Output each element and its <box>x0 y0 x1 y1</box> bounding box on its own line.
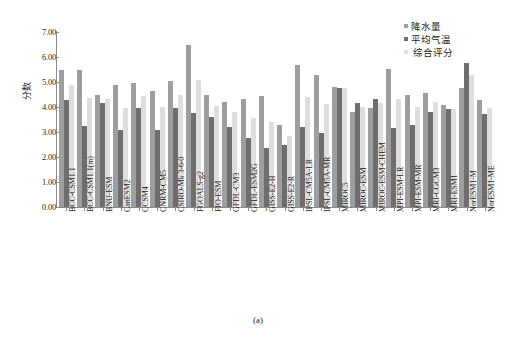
x-tick-label: BCC-CSM1.1 <box>69 167 77 212</box>
x-tick-label: MIROC5 <box>342 182 350 212</box>
figure-panel-a: 0.001.002.003.004.005.006.007.00 分数 BCC-… <box>0 0 516 340</box>
x-tick-mark <box>194 207 195 211</box>
legend-swatch-icon <box>404 50 408 54</box>
y-tick: 2.00 <box>0 153 56 162</box>
x-tick-mark <box>412 207 413 211</box>
y-tick-label: 7.00 <box>22 28 56 37</box>
y-axis-label: 分数 <box>20 82 33 100</box>
y-tick-label: 1.00 <box>22 178 56 187</box>
x-tick-mark <box>103 207 104 211</box>
y-tick: 3.00 <box>0 128 56 137</box>
x-tick-label: NorESM1-ME <box>488 165 496 212</box>
x-tick-mark <box>157 207 158 211</box>
x-tick-mark <box>339 207 340 211</box>
legend-label: 降水量 <box>411 20 441 33</box>
x-tick-label: GFDL-ESM2G <box>251 163 259 212</box>
y-tick-label: 0.00 <box>22 203 56 212</box>
x-tick-label: GISS-E2-R <box>288 176 296 212</box>
x-tick-mark <box>485 207 486 211</box>
x-axis-labels: BCC-CSM1.1BCC-CSM1.1(m)BNU-ESMCanESM2CCS… <box>57 212 494 322</box>
legend-item-precipitation: 降水量 <box>404 20 509 33</box>
y-tick-label: 3.00 <box>22 128 56 137</box>
x-tick-mark <box>357 207 358 211</box>
y-tick-label: 4.00 <box>22 103 56 112</box>
x-tick-mark <box>376 207 377 211</box>
x-tick-mark <box>321 207 322 211</box>
x-tick-mark <box>467 207 468 211</box>
x-tick-label: MPI-ESM-MR <box>415 165 423 212</box>
y-axis-ticks: 0.001.002.003.004.005.006.007.00 <box>0 32 56 207</box>
y-tick-label: 6.00 <box>22 53 56 62</box>
x-tick-mark <box>139 207 140 211</box>
legend-swatch-icon <box>404 24 408 28</box>
x-tick-mark <box>248 207 249 211</box>
x-tick-label: CSIRO-Mk 3-6-0 <box>178 157 186 212</box>
x-tick-label: BCC-CSM1.1(m) <box>87 156 95 212</box>
y-tick: 1.00 <box>0 178 56 187</box>
x-tick-mark <box>394 207 395 211</box>
bar-group <box>131 32 146 207</box>
x-tick-mark <box>430 207 431 211</box>
x-tick-label: IPSL-CM5A-MR <box>324 157 332 212</box>
legend-item-mean-temperature: 平均气温 <box>404 33 509 46</box>
x-tick-label: BNU-ESM <box>106 177 114 212</box>
x-tick-label: FIO-ESM <box>215 181 223 212</box>
legend-item-composite-score: 综合评分 <box>404 46 509 59</box>
x-tick-label: MIROC-ESM-CHEM <box>379 142 387 212</box>
x-tick-label: MPI-ESM-LR <box>397 167 405 212</box>
x-tick-label: IPSL-CM5A-LR <box>306 159 314 212</box>
x-tick-label: CCSM4 <box>142 186 150 212</box>
x-tick-label: FGOALS-g2 <box>197 171 205 212</box>
x-tick-label: CNRM-CM5 <box>160 170 168 212</box>
x-tick-label: CanESM2 <box>124 179 132 212</box>
x-tick-mark <box>303 207 304 211</box>
x-tick-mark <box>175 207 176 211</box>
legend: 降水量 平均气温 综合评分 <box>404 20 509 59</box>
y-tick: 7.00 <box>0 28 56 37</box>
x-tick-mark <box>66 207 67 211</box>
x-tick-mark <box>212 207 213 211</box>
x-tick-label: MRI-ESM1 <box>451 175 459 212</box>
x-tick-label: MRI-CGCM3 <box>433 168 441 212</box>
y-tick: 4.00 <box>0 103 56 112</box>
x-tick-label: GFDL-CM3 <box>233 173 241 212</box>
x-tick-label: MIROC-ESM <box>360 168 368 212</box>
x-tick-label: NorESM1-M <box>470 170 478 212</box>
y-tick: 6.00 <box>0 53 56 62</box>
x-tick-label: GISS-E2-H <box>269 176 277 212</box>
x-tick-mark <box>285 207 286 211</box>
x-tick-mark <box>121 207 122 211</box>
legend-label: 综合评分 <box>413 46 453 59</box>
figure-caption: (a) <box>0 315 516 325</box>
x-tick-mark <box>84 207 85 211</box>
x-tick-mark <box>266 207 267 211</box>
x-tick-mark <box>448 207 449 211</box>
bar-group <box>332 32 347 207</box>
x-tick-mark <box>230 207 231 211</box>
legend-label: 平均气温 <box>411 33 451 46</box>
y-tick-label: 2.00 <box>22 153 56 162</box>
legend-swatch-icon <box>404 37 408 41</box>
y-tick: 0.00 <box>0 203 56 212</box>
